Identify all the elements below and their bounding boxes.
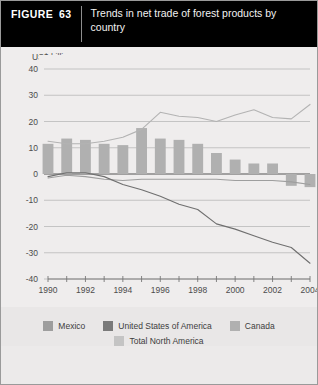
x-tick-label: 2004 <box>301 285 318 295</box>
bar-canada <box>43 144 54 174</box>
x-tick-label: 2002 <box>263 285 282 295</box>
bar-canada <box>230 160 241 174</box>
bar-canada <box>248 164 259 175</box>
x-tick-label: 1996 <box>151 285 170 295</box>
x-tick-label: 1998 <box>188 285 207 295</box>
y-tick-label: -30 <box>26 248 39 258</box>
legend-item-mexico[interactable]: Mexico <box>43 321 85 331</box>
legend-label: Total North America <box>129 336 203 346</box>
legend-label: Canada <box>245 321 275 331</box>
figure-header: FIGURE 63 Trends in net trade of forest … <box>1 1 317 47</box>
bar-canada <box>174 140 185 174</box>
chart-legend: MexicoUnited States of AmericaCanadaTota… <box>1 307 317 346</box>
bar-canada <box>80 140 91 174</box>
legend-swatch-icon <box>114 336 124 346</box>
figure-tag-word: FIGURE <box>11 8 53 20</box>
y-tick-label: 20 <box>29 117 39 127</box>
legend-label: Mexico <box>58 321 85 331</box>
y-tick-label: 40 <box>29 64 39 74</box>
legend-row: Total North America <box>1 336 317 346</box>
chart-plot: 403020100-10-20-30-401990199219941996199… <box>1 47 318 307</box>
legend-swatch-icon <box>43 321 53 331</box>
y-tick-label: -20 <box>26 222 39 232</box>
bar-canada <box>155 139 166 174</box>
legend-swatch-icon <box>230 321 240 331</box>
bar-canada <box>99 144 110 174</box>
bar-canada <box>192 144 203 174</box>
figure-tag-number: 63 <box>59 8 71 20</box>
figure-tag: FIGURE 63 <box>1 1 81 47</box>
chart-area: US$ billion 403020100-10-20-30-401990199… <box>1 47 317 307</box>
bar-canada <box>286 174 297 186</box>
y-tick-label: -40 <box>26 274 39 284</box>
y-tick-label: 0 <box>33 169 38 179</box>
x-tick-label: 1992 <box>76 285 95 295</box>
bar-canada <box>136 128 147 174</box>
y-tick-label: -10 <box>26 195 39 205</box>
x-tick-label: 2000 <box>226 285 245 295</box>
bar-canada <box>267 164 278 175</box>
y-tick-label: 30 <box>29 90 39 100</box>
legend-row: MexicoUnited States of AmericaCanada <box>1 321 317 331</box>
bar-canada <box>117 145 128 174</box>
legend-item-total-north-america[interactable]: Total North America <box>114 336 203 346</box>
bar-canada <box>211 153 222 174</box>
bar-canada <box>305 174 316 187</box>
x-tick-label: 1994 <box>113 285 132 295</box>
legend-item-united-states-of-america[interactable]: United States of America <box>103 321 212 331</box>
figure-card: FIGURE 63 Trends in net trade of forest … <box>0 0 318 385</box>
y-tick-label: 10 <box>29 143 39 153</box>
x-tick-label: 1990 <box>39 285 58 295</box>
legend-swatch-icon <box>103 321 113 331</box>
legend-item-canada[interactable]: Canada <box>230 321 275 331</box>
figure-title: Trends in net trade of forest products b… <box>82 1 317 47</box>
legend-label: United States of America <box>118 321 212 331</box>
